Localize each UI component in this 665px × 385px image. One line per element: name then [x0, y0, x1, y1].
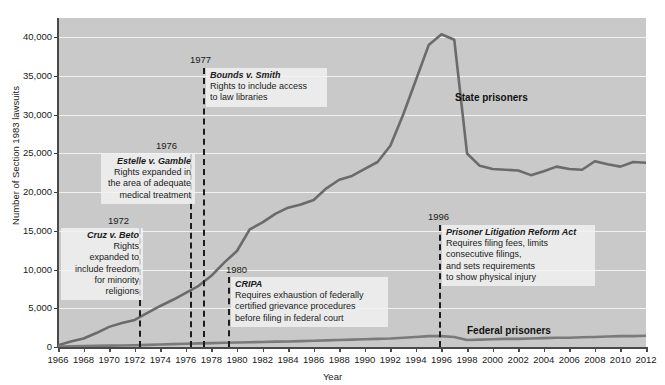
- x-tick-label: 2012: [629, 354, 663, 365]
- x-tick-mark: [211, 347, 213, 352]
- x-tick-mark: [109, 347, 111, 352]
- series-line-federal-prisoners: [58, 336, 646, 347]
- event-annotation-bounds-v-smith: Bounds v. SmithRights to include access …: [206, 68, 327, 107]
- x-tick-mark: [467, 347, 469, 352]
- event-year-prisoner-litigation-reform-act: 1996: [428, 211, 449, 222]
- event-description: Requires filing fees, limits consecutive…: [446, 238, 591, 283]
- x-tick-mark: [493, 347, 495, 352]
- x-axis-line: [58, 347, 646, 349]
- event-year-cruz-v-beto: 1972: [108, 215, 129, 226]
- federal-prisoners-label: Federal prisoners: [467, 325, 551, 336]
- event-title: CRIPA: [235, 279, 384, 290]
- x-tick-mark: [620, 347, 622, 352]
- event-year-estelle-v-gamble: 1976: [156, 140, 177, 151]
- event-description: Rights expanded in the area of adequate …: [105, 167, 191, 201]
- event-annotation-cruz-v-beto: Cruz v. BetoRights expanded to include f…: [61, 228, 143, 300]
- x-tick-mark: [646, 347, 648, 352]
- x-tick-mark: [58, 347, 60, 352]
- event-marker-line-cripa: [228, 277, 230, 347]
- x-tick-mark: [84, 347, 86, 352]
- x-tick-mark: [544, 347, 546, 352]
- x-tick-mark: [390, 347, 392, 352]
- x-tick-mark: [365, 347, 367, 352]
- state-prisoners-label: State prisoners: [455, 92, 528, 103]
- event-year-cripa: 1980: [226, 264, 247, 275]
- x-tick-mark: [569, 347, 571, 352]
- x-tick-mark: [237, 347, 239, 352]
- event-title: Cruz v. Beto: [65, 230, 139, 241]
- chart-container: 05,00010,00015,00020,00025,00030,00035,0…: [0, 0, 665, 385]
- x-tick-mark: [339, 347, 341, 352]
- event-marker-line-prisoner-litigation-reform-act: [439, 225, 441, 347]
- x-tick-mark: [595, 347, 597, 352]
- x-tick-mark: [135, 347, 137, 352]
- x-tick-mark: [263, 347, 265, 352]
- event-title: Prisoner Litigation Reform Act: [446, 227, 591, 238]
- x-tick-mark: [160, 347, 162, 352]
- event-title: Bounds v. Smith: [210, 70, 323, 81]
- event-annotation-cripa: CRIPARequires exhaustion of federally ce…: [231, 277, 388, 327]
- x-tick-mark: [288, 347, 290, 352]
- event-description: Rights to include access to law librarie…: [210, 81, 323, 103]
- x-tick-mark: [314, 347, 316, 352]
- event-marker-line-bounds-v-smith: [203, 68, 205, 347]
- event-description: Requires exhaustion of federally certifi…: [235, 290, 384, 324]
- x-tick-mark: [518, 347, 520, 352]
- x-tick-mark: [186, 347, 188, 352]
- x-tick-mark: [416, 347, 418, 352]
- event-annotation-prisoner-litigation-reform-act: Prisoner Litigation Reform ActRequires f…: [442, 225, 595, 286]
- x-axis-title: Year: [0, 371, 665, 382]
- event-annotation-estelle-v-gamble: Estelle v. GambleRights expanded in the …: [101, 154, 195, 204]
- event-description: Rights expanded to include freedom for m…: [65, 241, 139, 297]
- event-year-bounds-v-smith: 1977: [190, 54, 211, 65]
- y-axis-title: Number of Section 1983 lawsuits: [10, 0, 21, 321]
- x-tick-mark: [441, 347, 443, 352]
- y-tick-label: 0: [2, 341, 52, 352]
- event-title: Estelle v. Gamble: [105, 156, 191, 167]
